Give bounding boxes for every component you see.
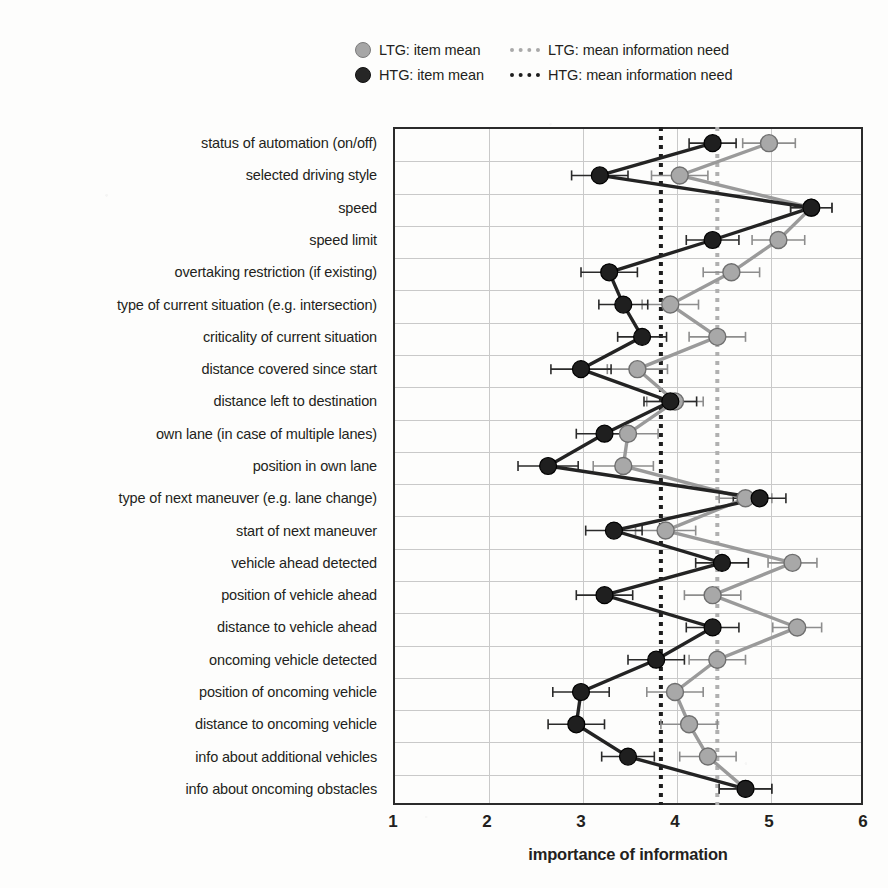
category-label: own lane (in case of multiple lanes) — [156, 426, 377, 442]
category-label: speed limit — [309, 232, 377, 248]
legend-marker-circle-dark-icon — [355, 67, 371, 83]
category-label: info about additional vehicles — [195, 749, 377, 765]
data-point — [615, 458, 632, 475]
data-point — [596, 587, 613, 604]
data-point — [620, 425, 637, 442]
category-label: distance covered since start — [201, 361, 377, 377]
data-point — [629, 361, 646, 378]
data-point — [540, 458, 557, 475]
legend-label: LTG: mean information need — [548, 42, 729, 58]
category-label: start of next maneuver — [236, 523, 377, 539]
data-point — [704, 135, 721, 152]
category-label: criticality of current situation — [203, 329, 377, 345]
data-point — [789, 619, 806, 636]
data-point — [568, 716, 585, 733]
data-point — [634, 328, 651, 345]
x-axis-tick-label: 1 — [388, 812, 397, 832]
category-label: distance to vehicle ahead — [217, 619, 377, 635]
legend-label: HTG: mean information need — [548, 67, 732, 83]
data-point — [737, 780, 754, 797]
legend-marker-dotted-line-dark-icon — [510, 73, 540, 77]
x-axis-tick-label: 4 — [670, 812, 679, 832]
data-point — [667, 684, 684, 701]
x-axis-tick-label: 5 — [764, 812, 773, 832]
data-point — [596, 425, 613, 442]
data-point — [704, 232, 721, 249]
category-label: distance to oncoming vehicle — [195, 716, 377, 732]
x-axis-tick-label: 2 — [482, 812, 491, 832]
data-point — [709, 651, 726, 668]
data-point — [591, 167, 608, 184]
category-label: vehicle ahead detected — [231, 555, 377, 571]
category-axis-labels: status of automation (on/off)selected dr… — [0, 127, 385, 805]
data-point — [662, 393, 679, 410]
data-point — [601, 264, 618, 281]
category-label: type of next maneuver (e.g. lane change) — [119, 490, 377, 506]
legend-item-ltg-mean-information-need: LTG: mean information need — [510, 42, 732, 58]
legend-item-ltg-item-mean: LTG: item mean — [355, 42, 484, 58]
legend-marker-circle-light-icon — [355, 42, 371, 58]
data-point — [573, 361, 590, 378]
legend-marker-dotted-line-light-icon — [510, 48, 540, 52]
data-point — [761, 135, 778, 152]
data-point — [704, 587, 721, 604]
data-point — [699, 748, 716, 765]
category-label: type of current situation (e.g. intersec… — [117, 297, 377, 313]
category-label: speed — [338, 200, 377, 216]
data-point — [709, 328, 726, 345]
data-point — [648, 651, 665, 668]
data-point — [723, 264, 740, 281]
legend-item-htg-item-mean: HTG: item mean — [355, 67, 484, 83]
category-label: position of oncoming vehicle — [199, 684, 377, 700]
data-point — [704, 619, 721, 636]
data-point — [605, 522, 622, 539]
category-label: info about oncoming obstacles — [185, 781, 377, 797]
chart-legend: LTG: item mean LTG: mean information nee… — [355, 42, 732, 83]
data-point — [784, 554, 801, 571]
data-point — [671, 167, 688, 184]
legend-label: LTG: item mean — [379, 42, 480, 58]
data-point — [615, 296, 632, 313]
category-label: selected driving style — [246, 167, 377, 183]
category-label: overtaking restriction (if existing) — [174, 264, 377, 280]
data-point — [714, 554, 731, 571]
data-point — [770, 232, 787, 249]
x-axis-tick-label: 6 — [858, 812, 867, 832]
data-point — [662, 296, 679, 313]
legend-item-htg-mean-information-need: HTG: mean information need — [510, 67, 732, 83]
data-point — [657, 522, 674, 539]
category-label: position of vehicle ahead — [221, 587, 377, 603]
data-point — [573, 684, 590, 701]
x-axis-title: importance of information — [393, 845, 863, 864]
category-label: oncoming vehicle detected — [209, 652, 377, 668]
data-point — [751, 490, 768, 507]
data-point — [803, 199, 820, 216]
data-point — [620, 748, 637, 765]
legend-label: HTG: item mean — [379, 67, 484, 83]
category-label: status of automation (on/off) — [201, 135, 377, 151]
data-point — [681, 716, 698, 733]
category-label: position in own lane — [253, 458, 377, 474]
x-axis-tick-label: 3 — [576, 812, 585, 832]
plot-series-layer — [393, 127, 863, 805]
category-label: distance left to destination — [214, 393, 377, 409]
